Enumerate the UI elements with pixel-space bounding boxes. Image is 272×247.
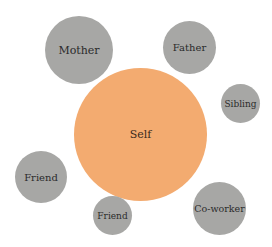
node-coworker-label: Co-worker	[194, 203, 245, 214]
network-diagram: Self Mother Father Sibling Friend Friend…	[0, 0, 272, 247]
node-friend-bottom-label: Friend	[97, 211, 127, 221]
node-coworker: Co-worker	[193, 182, 246, 235]
node-friend-left: Friend	[15, 151, 67, 203]
node-father: Father	[163, 21, 216, 74]
node-friend-bottom: Friend	[93, 196, 132, 235]
node-mother-label: Mother	[58, 44, 99, 57]
node-self-label: Self	[130, 128, 152, 141]
node-mother: Mother	[45, 16, 113, 84]
node-sibling-label: Sibling	[224, 99, 256, 109]
node-father-label: Father	[173, 42, 206, 53]
node-self: Self	[74, 68, 207, 201]
node-sibling: Sibling	[221, 84, 260, 123]
node-friend-left-label: Friend	[24, 172, 58, 183]
